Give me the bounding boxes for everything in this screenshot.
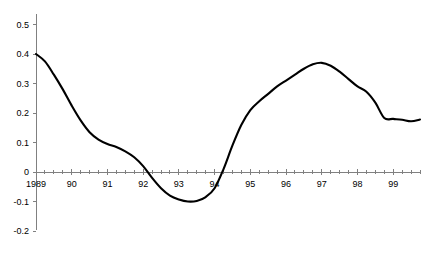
chart-container: 0.50.40.30.20.10-0.1-0.2 198990919293949… bbox=[0, 0, 431, 259]
y-axis-tick-label: -0.2 bbox=[0, 226, 29, 236]
line-chart-plot bbox=[0, 0, 431, 259]
y-axis-tick-label: 0 bbox=[0, 167, 29, 177]
x-axis-tick-label: 96 bbox=[281, 179, 291, 189]
y-axis-tick-label: 0.2 bbox=[0, 108, 29, 118]
y-axis-tick-label: 0.5 bbox=[0, 20, 29, 30]
y-axis-tick-label: -0.1 bbox=[0, 197, 29, 207]
x-axis-tick-label: 91 bbox=[102, 179, 112, 189]
y-axis-tick-label: 0.4 bbox=[0, 49, 29, 59]
x-axis-tick-label: 93 bbox=[174, 179, 184, 189]
x-axis-tick-label: 95 bbox=[245, 179, 255, 189]
x-axis-tick-label: 98 bbox=[352, 179, 362, 189]
x-axis-tick-label: 94 bbox=[210, 179, 220, 189]
x-axis-tick-label: 90 bbox=[67, 179, 77, 189]
y-axis-tick-label: 0.1 bbox=[0, 138, 29, 148]
x-axis-tick-label: 92 bbox=[138, 179, 148, 189]
x-axis-tick-label: 1989 bbox=[26, 179, 46, 189]
y-axis-tick-label: 0.3 bbox=[0, 79, 29, 89]
x-axis-tick-label: 97 bbox=[317, 179, 327, 189]
x-axis-tick-label: 99 bbox=[388, 179, 398, 189]
